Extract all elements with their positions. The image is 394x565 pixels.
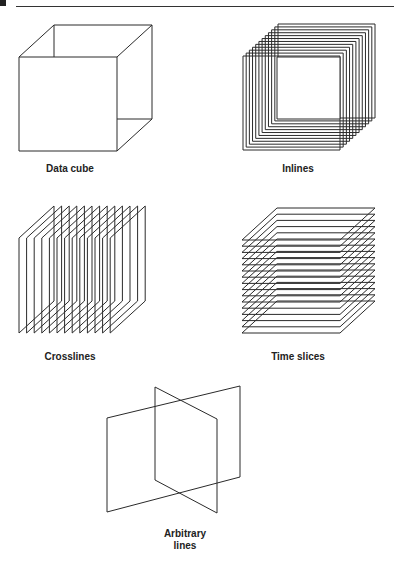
cube-depth-edge [117,25,152,57]
arbitrary-lines-label: Arbitrary lines [140,528,230,552]
arbitrary-lines-drawing [107,386,240,513]
time-slice [242,251,375,283]
time-slice [242,270,375,302]
time-slice [242,264,375,296]
arbitrary-lines-label-line2: lines [140,540,230,552]
time-slice [242,220,375,252]
time-slice [242,282,375,314]
inlines-hollow-center [277,57,340,119]
seismic-slices-figure [0,0,394,565]
arbitrary-plane-b [155,387,217,513]
time-slice [242,239,375,271]
crosslines-drawing [19,206,145,333]
time-slice [242,214,375,246]
time-slices-label: Time slices [258,351,338,363]
arbitrary-lines-label-line1: Arbitrary [140,528,230,540]
inlines-drawing [243,24,375,150]
arbitrary-plane-a [107,386,240,512]
time-slice [242,227,375,259]
data-cube-drawing [19,25,152,151]
inlines-label: Inlines [268,163,328,175]
time-slice [242,301,375,333]
crosslines-label: Crosslines [30,351,110,363]
time-slice [242,276,375,308]
time-slices-drawing [242,208,375,333]
cube-depth-edge [117,119,152,151]
time-slice [242,295,375,327]
time-slice [242,208,375,240]
time-slice [242,258,375,290]
time-slice [242,245,375,277]
cube-front-face [19,57,117,151]
data-cube-label: Data cube [30,163,110,175]
cube-depth-edge [19,25,54,57]
time-slice [242,233,375,265]
time-slice [242,289,375,321]
